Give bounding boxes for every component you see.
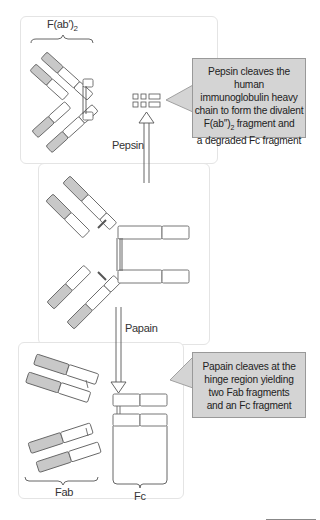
fab2-label-subscript: 2: [74, 24, 78, 33]
pepsin-callout-line4: F(ab″)2 fragment and: [193, 117, 305, 134]
pepsin-label: Pepsin: [112, 139, 144, 151]
fc-bracket: [113, 426, 167, 488]
pepsin-callout-line2: immunoglobulin heavy: [193, 91, 305, 104]
papain-callout: Papain cleaves at the hinge region yield…: [192, 352, 306, 418]
fab2-upper-arm: [30, 52, 93, 100]
fab-bracket: [25, 477, 98, 485]
fab-fragment-upper: [26, 354, 99, 403]
papain-label: Papain: [125, 322, 157, 334]
pepsin-callout: Pepsin cleaves the human immunoglobulin …: [192, 58, 306, 138]
fab2-bracket: [31, 35, 93, 43]
pepsin-callout-pointer: [166, 85, 193, 112]
papain-arrow[interactable]: [111, 307, 126, 393]
fc-fragment: [113, 394, 167, 426]
fc-label: Fc: [134, 490, 146, 502]
fab2-label-main: F(ab′): [47, 18, 74, 30]
fab2-label: F(ab′)2: [47, 18, 78, 33]
pepsin-callout-fab2: F(ab″): [204, 118, 231, 129]
igg-hinge: [117, 238, 122, 271]
pepsin-callout-line4-rest: fragment and: [234, 118, 294, 129]
pepsin-callout-line5: a degraded Fc fragment: [193, 134, 305, 147]
pepsin-callout-line3: chain to form the divalent: [193, 104, 305, 117]
degraded-fc-fragments: [133, 94, 160, 107]
fab-label: Fab: [55, 486, 73, 498]
fab-fragment-lower: [28, 423, 101, 473]
igg-lower-arm: [47, 265, 121, 329]
papain-callout-line4: and an Fc fragment: [193, 399, 305, 412]
papain-callout-line3: two Fab fragments: [193, 386, 305, 399]
fab2-lower-arm: [32, 102, 98, 153]
pepsin-callout-line1: Pepsin cleaves the human: [193, 65, 305, 91]
igg-upper-arm: [46, 176, 117, 238]
papain-callout-line1: Papain cleaves at the: [193, 360, 305, 373]
papain-callout-pointer: [170, 357, 193, 388]
papain-callout-line2: hinge region yielding: [193, 373, 305, 386]
igg-fc-tail: [118, 226, 189, 283]
